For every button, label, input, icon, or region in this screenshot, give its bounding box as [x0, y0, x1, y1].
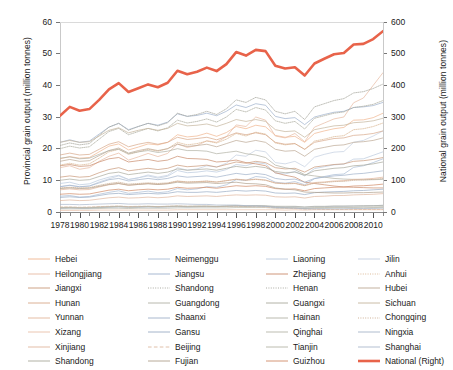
- x-axis-tick-mark: [334, 213, 335, 218]
- legend-swatch: [358, 269, 380, 279]
- legend-swatch: [148, 356, 170, 366]
- y-axis-right-tick-label: 100: [391, 175, 417, 185]
- y-axis-left-tick-label: 60: [26, 17, 52, 27]
- x-axis-minor-tick: [109, 213, 110, 216]
- legend-item[interactable]: Neimenggu: [148, 252, 256, 267]
- legend-swatch: [148, 342, 170, 352]
- legend-label: Guizhou: [293, 357, 325, 366]
- legend-label: Jiangsu: [175, 270, 204, 279]
- legend-swatch: [28, 269, 50, 279]
- legend-swatch: [28, 356, 50, 366]
- y-axis-left-tick-label: 20: [26, 143, 52, 153]
- y-axis-right-tick-label: 0: [391, 207, 417, 217]
- legend-item[interactable]: Anhui: [358, 267, 453, 282]
- legend-item[interactable]: Jilin: [358, 252, 453, 267]
- x-axis-minor-tick: [226, 213, 227, 216]
- legend-swatch: [358, 327, 380, 337]
- x-axis-minor-tick: [89, 213, 90, 216]
- legend-item[interactable]: Chongqing: [358, 310, 453, 325]
- legend-item[interactable]: Hunan: [28, 296, 136, 311]
- legend-swatch: [28, 298, 50, 308]
- legend-item[interactable]: Hubei: [358, 281, 453, 296]
- legend-item[interactable]: Ningxia: [358, 325, 453, 340]
- legend-label: Fujian: [175, 357, 198, 366]
- series-line-jiangsu: [60, 102, 383, 142]
- legend-column: HebeiHeilongjiangJiangxiHunanYunnanXizan…: [28, 252, 136, 369]
- legend-item[interactable]: Shanghai: [358, 340, 453, 355]
- legend-item[interactable]: National (Right): [358, 354, 453, 369]
- legend-swatch: [358, 313, 380, 323]
- legend-swatch: [358, 298, 380, 308]
- legend-swatch: [148, 313, 170, 323]
- legend-item[interactable]: Heilongjiang: [28, 267, 136, 282]
- y-axis-left-tick-label: 30: [26, 112, 52, 122]
- legend-label: Jiangxi: [55, 284, 81, 293]
- x-axis-tick-mark: [60, 213, 61, 218]
- legend-item[interactable]: Fujian: [148, 354, 256, 369]
- legend-swatch: [266, 313, 288, 323]
- legend-item[interactable]: Gansu: [148, 325, 256, 340]
- x-axis-minor-tick: [363, 213, 364, 216]
- legend-item[interactable]: Shandong: [148, 281, 256, 296]
- legend-swatch: [266, 269, 288, 279]
- legend-label: Guangxi: [293, 299, 325, 308]
- x-axis-minor-tick: [207, 213, 208, 216]
- legend-label: Xizang: [55, 328, 81, 337]
- legend-label: National (Right): [385, 357, 444, 366]
- x-axis-minor-tick: [266, 213, 267, 216]
- legend-swatch: [358, 254, 380, 264]
- legend-swatch: [28, 342, 50, 352]
- legend-swatch: [266, 283, 288, 293]
- legend-column: NeimengguJiangsuShandongGuangdongShaanxi…: [148, 252, 256, 369]
- legend-label: Shandong: [55, 357, 94, 366]
- legend-item[interactable]: Xizang: [28, 325, 136, 340]
- y-axis-left-tick-label: 0: [26, 207, 52, 217]
- legend-item[interactable]: Jiangxi: [28, 281, 136, 296]
- x-axis-tick-mark: [314, 213, 315, 218]
- legend-label: Zhejiang: [293, 270, 326, 279]
- legend-label: Hubei: [385, 284, 407, 293]
- legend-swatch: [148, 283, 170, 293]
- series-line-heilongjiang: [60, 73, 383, 170]
- legend-label: Tianjin: [293, 343, 318, 352]
- legend-item[interactable]: Yunnan: [28, 310, 136, 325]
- x-axis-tick-mark: [275, 213, 276, 218]
- x-axis-tick-mark: [138, 213, 139, 218]
- legend-item[interactable]: Shandong: [28, 354, 136, 369]
- y-axis-left-tick-label: 10: [26, 175, 52, 185]
- legend-item[interactable]: Shaanxi: [148, 310, 256, 325]
- legend-item[interactable]: Hebei: [28, 252, 136, 267]
- legend-label: Anhui: [385, 270, 407, 279]
- y-axis-right-title: National grain output (million tonnes): [438, 16, 448, 206]
- x-axis-tick-mark: [256, 213, 257, 218]
- x-axis-minor-tick: [305, 213, 306, 216]
- y-axis-right-tick-label: 200: [391, 143, 417, 153]
- x-axis-minor-tick: [187, 213, 188, 216]
- series-lines: [60, 22, 383, 212]
- x-axis-tick-mark: [236, 213, 237, 218]
- x-axis-minor-tick: [70, 213, 71, 216]
- series-line-xizang: [60, 210, 383, 211]
- legend-item[interactable]: Xinjiang: [28, 340, 136, 355]
- x-axis-tick-mark: [177, 213, 178, 218]
- series-line-henan: [60, 84, 383, 145]
- legend-swatch: [358, 283, 380, 293]
- legend-item[interactable]: Jiangsu: [148, 267, 256, 282]
- plot-area: [60, 22, 383, 212]
- legend-swatch: [266, 254, 288, 264]
- legend-label: Liaoning: [293, 255, 325, 264]
- legend-label: Qinghai: [293, 328, 322, 337]
- legend-item[interactable]: Guangdong: [148, 296, 256, 311]
- legend-label: Hunan: [55, 299, 80, 308]
- legend-label: Sichuan: [385, 299, 416, 308]
- legend-label: Shanghai: [385, 343, 421, 352]
- legend-item[interactable]: Sichuan: [358, 296, 453, 311]
- x-axis-minor-tick: [344, 213, 345, 216]
- chart-legend: HebeiHeilongjiangJiangxiHunanYunnanXizan…: [8, 252, 439, 368]
- y-axis-right-tick-label: 500: [391, 48, 417, 58]
- legend-item[interactable]: Beijing: [148, 340, 256, 355]
- series-line-national-right: [60, 31, 383, 116]
- y-axis-left-tick-label: 40: [26, 80, 52, 90]
- x-axis-tick-mark: [217, 213, 218, 218]
